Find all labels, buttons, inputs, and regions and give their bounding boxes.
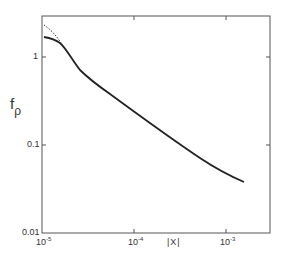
plot-frame	[42, 16, 270, 233]
x-tick-base: 10	[220, 237, 230, 247]
y-axis-label-sub: ρ	[14, 104, 21, 118]
x-axis-label: |X|	[167, 237, 181, 247]
solid-curve	[44, 37, 244, 182]
axis-ticks	[42, 16, 270, 233]
x-tick-base: 10	[36, 237, 46, 247]
dotted-curve	[44, 25, 61, 43]
y-axis-label: fρ	[10, 95, 21, 112]
x-tick-1e-4: 10-4	[128, 236, 143, 247]
y-tick-0.1: 0.1	[27, 139, 40, 149]
x-tick-exp: -3	[230, 236, 235, 242]
x-tick-exp: -5	[46, 236, 51, 242]
x-tick-1e-3: 10-3	[220, 236, 235, 247]
chart-canvas	[0, 0, 288, 264]
x-tick-exp: -4	[138, 236, 143, 242]
x-tick-1e-5: 10-5	[36, 236, 51, 247]
y-tick-1: 1	[33, 51, 38, 61]
x-tick-base: 10	[128, 237, 138, 247]
